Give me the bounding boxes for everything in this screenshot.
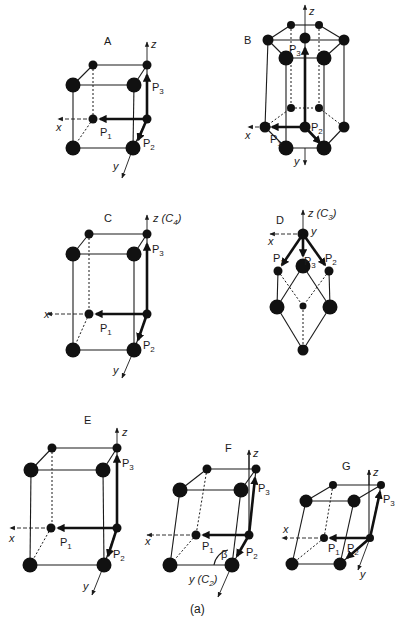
lattice-point — [334, 558, 347, 571]
lattice-point — [300, 33, 311, 44]
lattice-point — [234, 483, 249, 498]
panel-letter-c: C — [104, 212, 112, 224]
lattice-point — [126, 141, 141, 156]
lattice-point — [323, 300, 338, 315]
lattice-point — [287, 21, 295, 29]
lattice-edge — [303, 307, 330, 350]
panel-b: zxyP1P2P3B — [244, 5, 350, 167]
lattice-edge — [170, 490, 180, 565]
axis-label: y — [310, 225, 318, 237]
lattice-point — [320, 534, 328, 542]
vector-label-p2: P2 — [325, 252, 337, 267]
lattice-point — [203, 465, 212, 474]
lattice-point — [97, 558, 112, 573]
lattice-point — [348, 495, 361, 508]
panel-d: z (C3)xyP1P2P3D — [267, 207, 338, 356]
lattice-edge — [277, 307, 303, 350]
lattice-point — [96, 463, 111, 478]
vector-label-p2: P2 — [143, 339, 155, 354]
panel-letter-b: B — [244, 34, 251, 46]
vector-label-p3: P3 — [122, 457, 134, 472]
axis-label: z — [121, 426, 128, 438]
axis-label: z (C3) — [307, 207, 337, 222]
lattice-point — [260, 122, 271, 133]
axis-label: x — [55, 121, 62, 133]
lattice-point — [286, 558, 299, 571]
lattice-point — [85, 230, 94, 239]
hidden-edge — [278, 271, 303, 306]
vector-label-p1: P1 — [270, 133, 282, 148]
vector-label-p3: P3 — [152, 81, 164, 96]
lattice-edge — [292, 501, 306, 564]
lattice-point — [66, 343, 81, 358]
panel-c: z (C4)xyP1P2P3C — [43, 212, 182, 378]
axis-label: y — [82, 580, 90, 592]
lattice-point — [23, 558, 38, 573]
axis-label: y — [359, 568, 367, 580]
lattice-edge — [30, 470, 31, 565]
lattice-diagrams-svg: zxyP1P2P3AzxyP1P2P3Bz (C4)xyP1P2P3Cz (C3… — [0, 0, 410, 630]
vector-label-p2: P2 — [143, 137, 155, 152]
angle-beta-label: β — [221, 548, 227, 560]
lattice-point — [377, 481, 385, 489]
vector-label-p1: P1 — [100, 322, 112, 337]
panel-a: zxyP1P2P3A — [55, 35, 164, 178]
panel-letter-f: F — [225, 442, 232, 454]
lattice-point — [127, 247, 142, 262]
panels-group: zxyP1P2P3AzxyP1P2P3Bz (C4)xyP1P2P3Cz (C3… — [8, 5, 395, 597]
vector-label-p1: P1 — [100, 126, 112, 141]
lattice-point — [298, 345, 309, 356]
axis-label: y — [293, 155, 301, 167]
axis-label: x — [8, 532, 15, 544]
lattice-point — [339, 35, 350, 46]
lattice-point — [89, 61, 98, 70]
lattice-point — [113, 444, 122, 453]
axis-label: x — [43, 308, 50, 320]
lattice-figure: zxyP1P2P3AzxyP1P2P3Bz (C4)xyP1P2P3Cz (C3… — [0, 0, 410, 630]
hidden-edge — [324, 485, 333, 538]
lattice-point — [85, 310, 94, 319]
lattice-point — [163, 558, 178, 573]
primitive-vector-p3-arrow — [370, 492, 380, 538]
lattice-point — [66, 78, 81, 93]
lattice-point — [252, 465, 261, 474]
lattice-point — [143, 61, 152, 70]
vector-label-p1: P1 — [328, 542, 340, 557]
lattice-point — [339, 122, 350, 133]
vector-label-p3: P3 — [383, 493, 395, 508]
lattice-point — [127, 78, 142, 93]
vector-label-p1: P1 — [202, 540, 214, 555]
vector-label-p1: P1 — [60, 536, 72, 551]
panel-letter-e: E — [84, 414, 91, 426]
lattice-point — [315, 21, 323, 29]
axis-label: x — [267, 235, 274, 247]
panel-f: zxy (C2)P1P2P3βF — [144, 442, 270, 597]
lattice-point — [315, 104, 323, 112]
vector-label-p3: P3 — [152, 243, 164, 258]
axis-label: z — [150, 38, 157, 50]
lattice-point — [300, 303, 307, 310]
panel-g: zxyP1P2P3G — [282, 460, 395, 580]
axis-label: y (C2) — [188, 573, 218, 588]
lattice-point — [192, 531, 201, 540]
axis-label: z — [372, 466, 379, 478]
lattice-edge — [103, 470, 104, 565]
lattice-point — [143, 230, 152, 239]
lattice-point — [263, 35, 274, 46]
lattice-edge — [265, 40, 268, 127]
axis-label: y — [112, 364, 120, 376]
axis-label: x — [244, 129, 251, 141]
panel-letter-a: A — [104, 35, 112, 47]
axis-label: z — [252, 447, 259, 459]
lattice-point — [47, 524, 56, 533]
primitive-vector-p2-arrow — [138, 314, 147, 340]
lattice-point — [89, 115, 98, 124]
lattice-point — [274, 267, 283, 276]
lattice-point — [270, 300, 285, 315]
axis-label: z — [308, 5, 315, 17]
figure-caption: (a) — [190, 602, 205, 616]
lattice-point — [66, 141, 81, 156]
lattice-point — [173, 483, 188, 498]
axis-label: x — [144, 535, 151, 547]
axis-label: z (C4) — [152, 212, 182, 227]
